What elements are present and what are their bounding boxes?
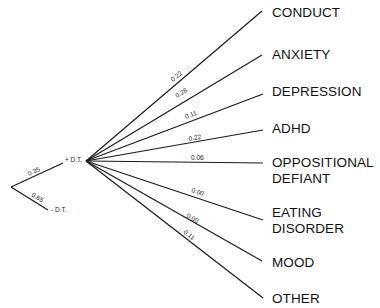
prob-conduct: 0.22 <box>169 69 183 83</box>
node-label-positive-dt: + D.T. <box>65 156 82 163</box>
prob-depression: 0.11 <box>184 109 198 120</box>
outcome-label-conduct: CONDUCT <box>272 5 340 21</box>
outcome-label-depression: DEPRESSION <box>272 84 362 100</box>
branch-other <box>86 161 263 298</box>
prob-anxiety: 0.28 <box>174 86 189 99</box>
outcome-label-oppositional-defiant: OPPOSITIONAL DEFIANT <box>272 155 374 187</box>
branch-depression <box>86 94 263 161</box>
outcome-label-line1: EATING <box>272 205 344 221</box>
prob-eating-disorder: 0.00 <box>191 186 206 197</box>
node-label-negative-dt: - D.T. <box>51 206 67 213</box>
outcome-label-other: OTHER <box>272 291 320 307</box>
branch-oppositional-defiant <box>86 161 263 163</box>
outcome-label-mood: MOOD <box>272 255 314 271</box>
outcome-label-line2: DEFIANT <box>272 171 374 187</box>
branch-conduct <box>86 11 262 161</box>
outcome-label-line2: DISORDER <box>272 221 344 237</box>
prob-oppositional-defiant: 0.06 <box>191 154 204 161</box>
outcome-label-line1: OPPOSITIONAL <box>272 155 374 171</box>
prob-other: 0.11 <box>182 228 196 241</box>
outcome-label-eating-disorder: EATING DISORDER <box>272 205 344 237</box>
prob-positive-dt: 0.35 <box>26 165 41 177</box>
prob-negative-dt: 0.65 <box>30 191 45 204</box>
outcome-label-anxiety: ANXIETY <box>272 47 330 63</box>
outcome-label-adhd: ADHD <box>272 121 311 137</box>
